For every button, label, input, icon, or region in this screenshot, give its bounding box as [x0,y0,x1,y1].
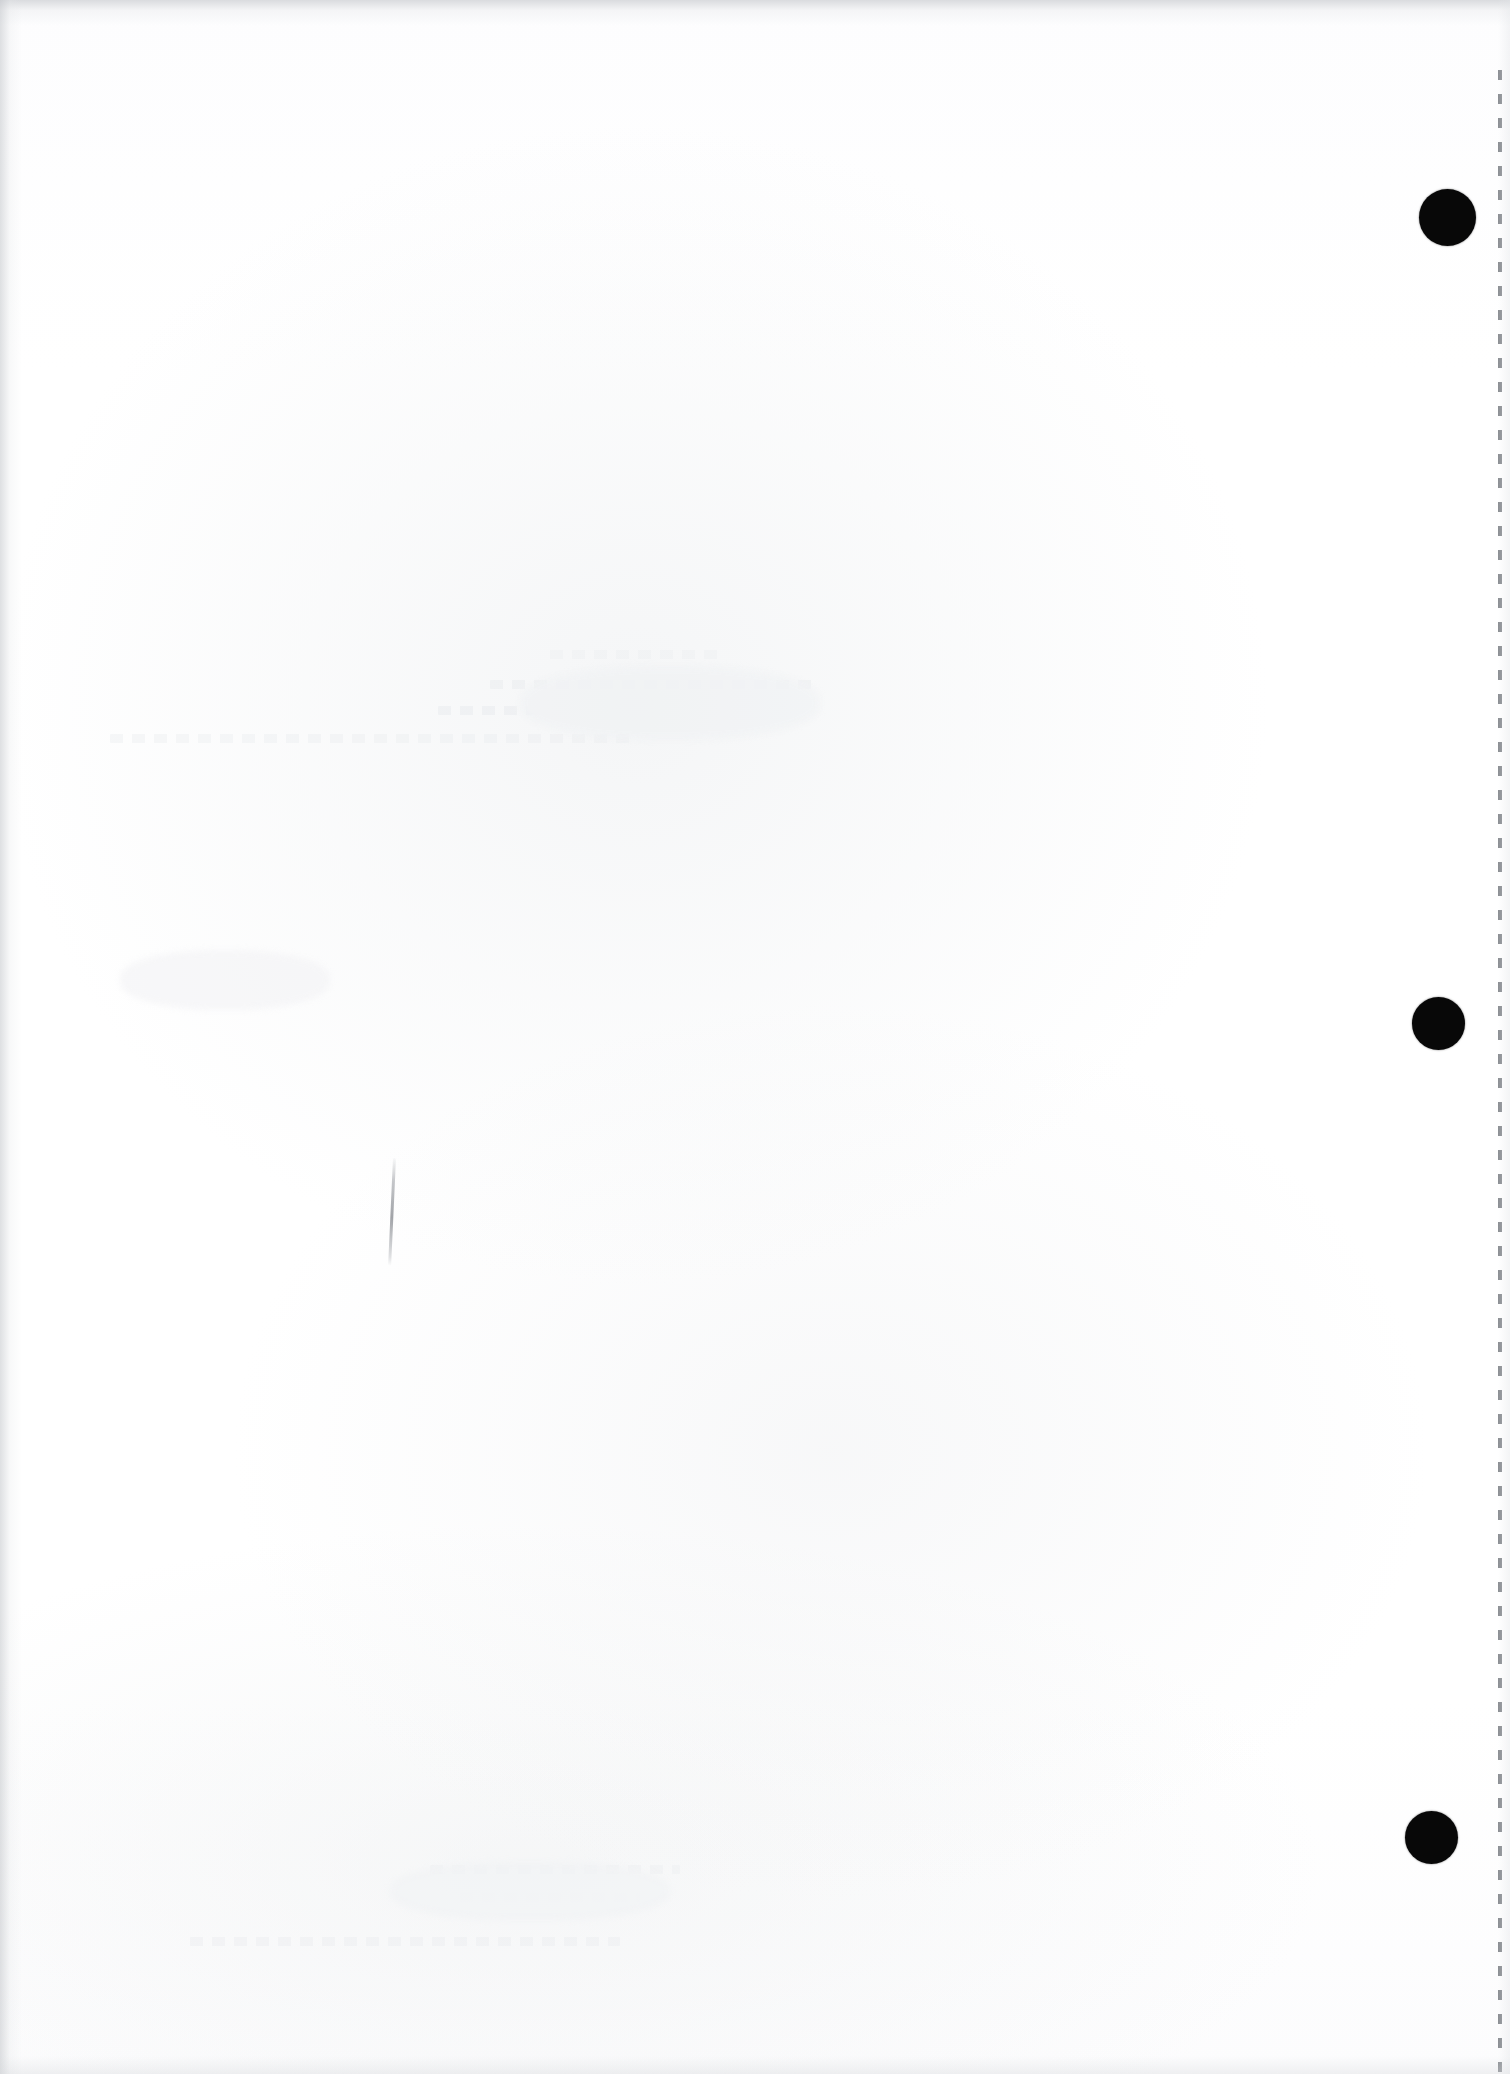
punch-hole-top [1419,189,1476,246]
scan-edge-shadow-top [0,0,1510,26]
punch-hole-bottom [1405,1811,1458,1864]
punch-hole-middle [1412,997,1465,1050]
page-text-content [110,120,1360,1920]
ghost-line [190,1937,620,1946]
scan-edge-shadow-left [0,0,22,2074]
scan-edge-shadow-bottom [0,2056,1510,2074]
scanned-page [0,0,1510,2074]
scan-edge-shadow-right [1498,0,1510,2074]
